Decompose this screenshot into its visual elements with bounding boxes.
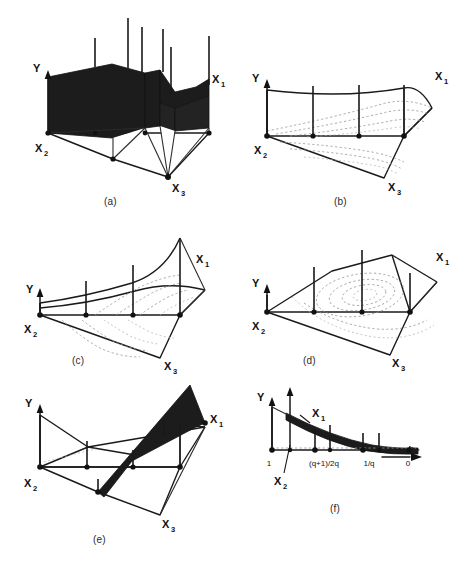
panel-d-base-lower bbox=[267, 312, 410, 355]
panel-d-diagram: Y X 1 X 2 X 3 bbox=[232, 225, 464, 375]
panel-d-x3-label: X bbox=[392, 357, 400, 369]
panel-b-plane-lower bbox=[267, 136, 404, 178]
panel-a-x2-sub: 2 bbox=[44, 149, 48, 158]
panel-a-x3-label: X bbox=[172, 182, 180, 194]
panel-e-caption: (e) bbox=[93, 534, 106, 545]
panel-a-node-x1 bbox=[206, 130, 211, 135]
panel-d-x2-sub: 2 bbox=[261, 327, 265, 336]
panel-e-contour-1 bbox=[44, 449, 96, 462]
panel-e-x1-sub: 1 bbox=[219, 420, 223, 429]
panel-a-surface-block-left bbox=[48, 64, 145, 138]
panel-f-tick-label-2: (q+1)/2q bbox=[309, 459, 339, 468]
panel-a-node-3 bbox=[143, 131, 148, 136]
panel-c-node-2 bbox=[130, 312, 135, 317]
panel-d-y-label: Y bbox=[252, 277, 260, 289]
panel-c-contour-lower-2 bbox=[82, 320, 148, 351]
panel-a-surface-block-mid bbox=[145, 70, 160, 128]
panel-d-y-axis-arrowhead bbox=[264, 284, 271, 293]
panel-e-x1-label: X bbox=[210, 413, 218, 425]
panel-d-contour-3 bbox=[341, 282, 388, 309]
panel-e-node-x1 bbox=[202, 420, 208, 426]
panel-f-guide-line bbox=[272, 407, 288, 415]
panel-c-x3-sub: 3 bbox=[173, 367, 177, 375]
panel-f-x2-axis-arrowhead bbox=[287, 387, 294, 396]
panel-e-black-ribbon bbox=[98, 385, 205, 497]
panel-e-node-3 bbox=[177, 464, 183, 470]
panel-e-node-4 bbox=[95, 489, 101, 495]
panel-e-node-2 bbox=[130, 464, 135, 469]
panel-f-tick-label-1: 1 bbox=[267, 459, 272, 468]
panel-b-node-2 bbox=[356, 133, 361, 138]
panel-c-diagram: Y X 1 X 2 X 3 bbox=[0, 225, 232, 375]
panel-f-y-label: Y bbox=[257, 391, 265, 403]
panel-b-y-axis-arrowhead bbox=[264, 79, 271, 88]
panel-f-x2-leader bbox=[284, 445, 290, 473]
panel-f-tick-node-3 bbox=[328, 448, 332, 452]
panel-c-contour-lower-4 bbox=[128, 320, 174, 338]
panel-e-x2-label: X bbox=[24, 477, 32, 489]
panel-a-y-axis-arrowhead bbox=[45, 70, 52, 79]
panel-f-tick-node-1 bbox=[269, 447, 275, 453]
panel-b-x2-label: X bbox=[254, 144, 262, 156]
panel-f-tick-label-3: 1/q bbox=[363, 459, 374, 468]
panel-e-x3-label: X bbox=[162, 518, 170, 530]
panel-b-caption: (b) bbox=[334, 196, 347, 207]
panel-e-x2-sub: 2 bbox=[33, 484, 37, 493]
panel-a-y-label: Y bbox=[33, 62, 41, 74]
panel-c-contour-lower-1 bbox=[62, 320, 140, 357]
panel-c-surface-top bbox=[40, 238, 180, 303]
panel-e-base-lower bbox=[40, 467, 180, 515]
panel-f-x2-label: X bbox=[274, 475, 282, 487]
panel-d-node-1 bbox=[311, 309, 316, 314]
panel-a-x3-sub: 3 bbox=[181, 189, 185, 198]
panel-e-y-axis-arrowhead bbox=[37, 404, 44, 413]
panel-c-surface-right-low bbox=[180, 290, 205, 315]
panel-b-y-label: Y bbox=[252, 72, 260, 84]
panel-c-node-3 bbox=[177, 312, 183, 318]
panel-b-x3-label: X bbox=[388, 181, 396, 193]
panel-f-x2-sub: 2 bbox=[283, 482, 287, 491]
panel-e-surface-lower-left bbox=[40, 447, 88, 467]
panel-e-y-label: Y bbox=[25, 397, 33, 409]
panel-b-x1-sub: 1 bbox=[444, 77, 448, 86]
panel-c-x1-label: X bbox=[196, 253, 204, 265]
panel-a-x1-label: X bbox=[212, 73, 220, 85]
panel-c-y-label: Y bbox=[26, 283, 34, 295]
panel-b-contour-1 bbox=[267, 101, 432, 131]
panel-f-x1-label: X bbox=[312, 407, 320, 419]
panel-b-x3-sub: 3 bbox=[397, 188, 401, 197]
panel-a-node-x3 bbox=[165, 174, 171, 180]
panel-b-node-3 bbox=[401, 133, 407, 139]
panel-f-tick-node-5 bbox=[377, 448, 381, 452]
panel-a-x2-label: X bbox=[35, 142, 43, 154]
panel-a-caption: (a) bbox=[104, 196, 117, 207]
panel-b-contour-2 bbox=[276, 110, 429, 134]
panel-f-caption: (f) bbox=[330, 503, 340, 514]
panel-a-diagram: Y X 1 X 2 X 3 bbox=[0, 0, 232, 200]
panel-d-x3-sub: 3 bbox=[401, 364, 405, 373]
panel-f-tick-node-2 bbox=[312, 447, 318, 453]
panel-a-node-1 bbox=[93, 131, 97, 135]
panel-c-x2-sub: 2 bbox=[33, 330, 37, 339]
panel-d-x2-label: X bbox=[252, 320, 260, 332]
panel-b-node-1 bbox=[310, 133, 315, 138]
panel-f-diagram: Y X 1 X 2 1 (q+1)/2q 1/ bbox=[232, 375, 464, 525]
panel-d-contour-1 bbox=[313, 267, 406, 322]
panel-d-caption: (d) bbox=[303, 355, 316, 366]
panel-c-caption: (c) bbox=[72, 355, 84, 366]
panel-c-node-1 bbox=[83, 312, 88, 317]
panel-c-y-axis-arrowhead bbox=[37, 288, 44, 297]
panel-f-tick-label-4: 0 bbox=[406, 459, 411, 468]
panel-c-x3-label: X bbox=[164, 360, 172, 372]
panel-f-tick-node-4 bbox=[360, 447, 366, 453]
panel-b-contour-lower-1 bbox=[280, 142, 404, 162]
panel-b-plane-right bbox=[404, 108, 432, 136]
panel-f-tick-node-6 bbox=[406, 447, 412, 453]
panel-c-x2-label: X bbox=[24, 323, 32, 335]
panel-d-node-3 bbox=[407, 309, 413, 315]
panel-a-node-2 bbox=[110, 156, 115, 161]
panel-f-y-axis-arrowhead bbox=[269, 397, 276, 406]
panel-b-contour-lower-2 bbox=[290, 149, 402, 169]
figure-root: Y X 1 X 2 X 3 (a) bbox=[0, 0, 464, 569]
panel-c-x1-sub: 1 bbox=[205, 260, 209, 269]
